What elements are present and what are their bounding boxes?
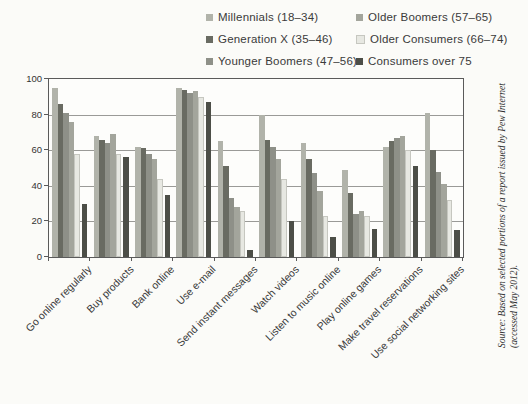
legend-swatch-icon	[206, 36, 213, 43]
x-axis-tick	[89, 257, 90, 261]
bar-group	[380, 79, 421, 257]
bar	[165, 195, 171, 257]
y-axis-tick	[44, 149, 48, 150]
x-axis-tick	[421, 257, 422, 261]
legend-item: Younger Boomers (47–56)	[206, 54, 357, 68]
x-axis-tick	[172, 257, 173, 261]
x-axis-tick	[48, 257, 49, 261]
bar	[330, 237, 336, 257]
legend-swatch-icon	[356, 14, 363, 21]
x-axis-label: Use e-mail	[174, 263, 218, 307]
bar-group	[132, 79, 173, 257]
x-axis-tick	[379, 257, 380, 261]
bar-group	[215, 79, 256, 257]
x-axis-label: Bank online	[129, 263, 176, 310]
x-axis-tick	[214, 257, 215, 261]
bar	[116, 154, 122, 257]
legend-item: Generation X (35–46)	[206, 32, 333, 46]
bar-group	[256, 79, 297, 257]
y-axis-label: 40	[12, 180, 42, 191]
legend-label: Consumers over 75	[368, 55, 472, 67]
bar	[405, 150, 411, 257]
bar	[198, 97, 204, 257]
bar-chart-figure: Millennials (18–34)Generation X (35–46)Y…	[0, 0, 528, 404]
bar	[281, 179, 287, 257]
y-axis-label: 20	[12, 215, 42, 226]
source-line1: Source: Based on selected portions of a …	[497, 83, 507, 348]
bar-group	[422, 79, 463, 257]
plot-area	[48, 78, 464, 258]
y-axis-tick	[44, 78, 48, 79]
bar	[123, 157, 129, 257]
x-axis-label: Send instant messages	[174, 263, 260, 349]
legend-item: Older Boomers (57–65)	[356, 10, 492, 24]
bar	[82, 204, 88, 257]
bar-group	[297, 79, 338, 257]
x-axis-tick	[255, 257, 256, 261]
y-axis-tick	[44, 220, 48, 221]
bar-group	[90, 79, 131, 257]
x-axis-label: Listen to music online	[262, 263, 342, 343]
x-axis-tick	[462, 257, 463, 261]
legend-swatch-icon	[356, 58, 363, 65]
bar	[364, 216, 370, 257]
x-axis-label: Go online regularly	[23, 263, 94, 334]
y-axis-label: 60	[12, 144, 42, 155]
y-axis-label: 0	[12, 251, 42, 262]
bar	[289, 221, 295, 257]
bar	[447, 200, 453, 257]
x-axis-tick	[338, 257, 339, 261]
bar-groups	[49, 79, 463, 257]
legend-item: Millennials (18–34)	[206, 10, 318, 24]
legend-swatch-icon	[206, 14, 213, 21]
legend-label: Generation X (35–46)	[218, 33, 333, 45]
legend-item: Older Consumers (66–74)	[356, 32, 508, 46]
bar	[74, 154, 80, 257]
bar	[157, 179, 163, 257]
bar	[323, 216, 329, 257]
y-axis-label: 80	[12, 109, 42, 120]
y-axis-tick	[44, 114, 48, 115]
source-line2: (accessed May 2012).	[509, 265, 519, 348]
bar-group	[49, 79, 90, 257]
legend-item: Consumers over 75	[356, 54, 472, 68]
x-axis-tick	[296, 257, 297, 261]
bar-group	[173, 79, 214, 257]
bar	[247, 250, 253, 257]
bar-group	[339, 79, 380, 257]
legend-swatch-icon	[356, 35, 365, 44]
bar	[240, 211, 246, 257]
bar	[454, 230, 460, 257]
legend-swatch-icon	[206, 58, 213, 65]
bar	[372, 229, 378, 257]
source-note: Source: Based on selected portions of a …	[497, 63, 520, 348]
x-axis-tick	[131, 257, 132, 261]
y-axis-tick	[44, 185, 48, 186]
bar	[206, 102, 212, 257]
legend-label: Older Consumers (66–74)	[370, 33, 508, 45]
legend-label: Millennials (18–34)	[218, 11, 318, 23]
y-axis-label: 100	[12, 73, 42, 84]
legend-label: Younger Boomers (47–56)	[218, 55, 357, 67]
bar	[413, 166, 419, 257]
legend-label: Older Boomers (57–65)	[368, 11, 492, 23]
